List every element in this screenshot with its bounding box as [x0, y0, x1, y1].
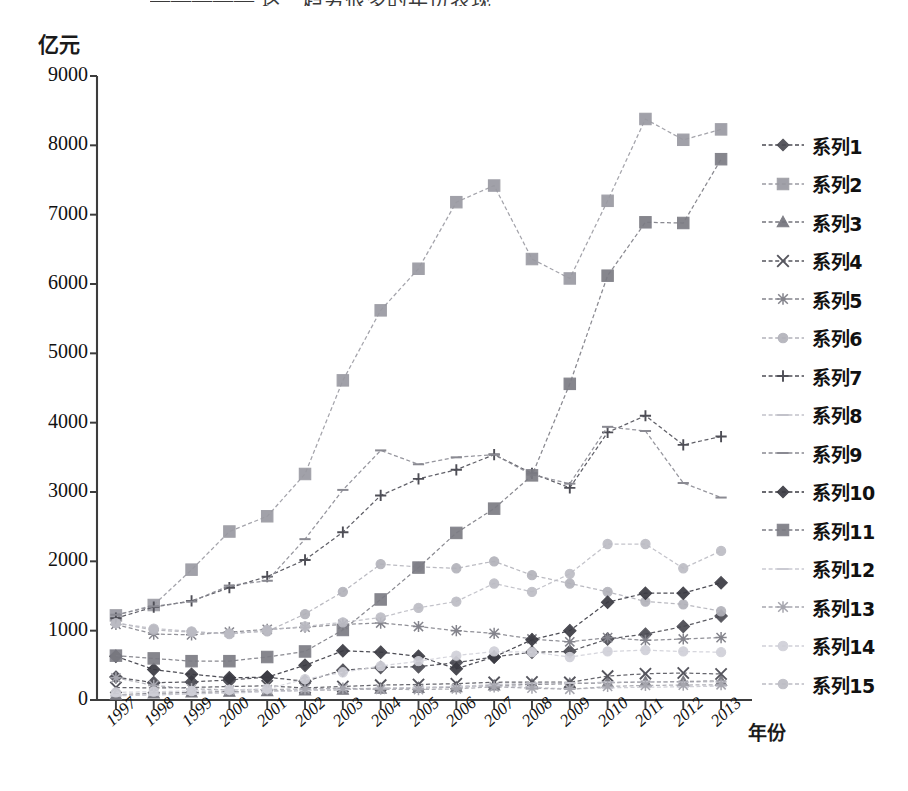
legend-item[interactable]: 系列14 — [760, 627, 908, 666]
square-marker-icon — [760, 521, 806, 539]
chart-legend: 系列1系列2系列3系列4系列5系列6系列7系列8系列9系列10系列11系列12系… — [760, 126, 908, 704]
square-marker-icon — [760, 175, 806, 193]
dash-marker-icon — [760, 406, 806, 424]
data-series — [110, 113, 727, 621]
data-series — [110, 427, 726, 615]
legend-item[interactable]: 系列5 — [760, 280, 908, 319]
legend-item[interactable]: 系列12 — [760, 550, 908, 589]
y-tick-label: 6000 — [14, 271, 88, 294]
y-tick-label: 7000 — [14, 202, 88, 225]
data-series — [110, 154, 727, 667]
circle-marker-icon — [760, 637, 806, 655]
legend-item-label: 系列1 — [812, 132, 862, 159]
dash-marker-icon — [760, 444, 806, 462]
y-tick-label: 1000 — [14, 618, 88, 641]
chart-page: ————— 这一趋势很多的年份表现 亿元 年份 0100020003000400… — [0, 0, 908, 791]
axis-layer — [90, 76, 752, 709]
triangle-marker-icon — [760, 213, 806, 231]
y-tick-label: 5000 — [14, 340, 88, 363]
legend-item-label: 系列2 — [812, 170, 862, 197]
star-marker-icon — [760, 290, 806, 308]
legend-item-label: 系列9 — [812, 440, 862, 467]
legend-item[interactable]: 系列13 — [760, 588, 908, 627]
legend-item-label: 系列14 — [812, 632, 875, 659]
legend-item-label: 系列13 — [812, 594, 875, 621]
plus-marker-icon — [760, 367, 806, 385]
legend-item[interactable]: 系列8 — [760, 396, 908, 435]
series-layer — [110, 113, 728, 699]
circle-marker-icon — [760, 329, 806, 347]
legend-item-label: 系列3 — [812, 209, 862, 236]
diamond-marker-icon — [760, 136, 806, 154]
data-series — [110, 410, 726, 624]
circle-marker-icon — [760, 675, 806, 693]
legend-item[interactable]: 系列2 — [760, 165, 908, 204]
dash-marker-icon — [760, 560, 806, 578]
legend-item-label: 系列12 — [812, 555, 875, 582]
legend-item-label: 系列5 — [812, 286, 862, 313]
legend-item-label: 系列6 — [812, 324, 862, 351]
y-tick-label: 4000 — [14, 410, 88, 433]
legend-item[interactable]: 系列4 — [760, 242, 908, 281]
y-tick-label: 8000 — [14, 132, 88, 155]
legend-item-label: 系列11 — [812, 517, 875, 544]
legend-item-label: 系列10 — [812, 478, 875, 505]
star-marker-icon — [760, 598, 806, 616]
legend-item-label: 系列8 — [812, 401, 862, 428]
diamond-marker-icon — [760, 483, 806, 501]
legend-item[interactable]: 系列3 — [760, 203, 908, 242]
legend-item-label: 系列7 — [812, 363, 862, 390]
legend-item[interactable]: 系列1 — [760, 126, 908, 165]
y-tick-label: 0 — [14, 687, 88, 710]
y-tick-label: 3000 — [14, 479, 88, 502]
legend-item[interactable]: 系列9 — [760, 434, 908, 473]
cross-marker-icon — [760, 252, 806, 270]
legend-item[interactable]: 系列11 — [760, 511, 908, 550]
legend-item[interactable]: 系列10 — [760, 473, 908, 512]
legend-item-label: 系列4 — [812, 247, 862, 274]
y-tick-label: 2000 — [14, 548, 88, 571]
legend-item[interactable]: 系列6 — [760, 319, 908, 358]
legend-item-label: 系列15 — [812, 671, 875, 698]
legend-item[interactable]: 系列7 — [760, 357, 908, 396]
legend-item[interactable]: 系列15 — [760, 665, 908, 704]
y-tick-label: 9000 — [14, 63, 88, 86]
